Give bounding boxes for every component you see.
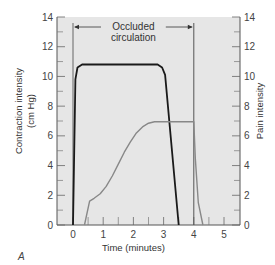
plot-background (57, 17, 240, 225)
y-tick-label-left: 2 (47, 190, 53, 201)
x-axis-title: Time (minutes) (102, 242, 165, 253)
chart: 0022446688101012121414012345 Occluded ci… (0, 0, 275, 265)
y-tick-label-right: 4 (244, 160, 250, 171)
y-tick-label-left: 4 (47, 160, 53, 171)
y-axis-left-unit: (cm Hg) (25, 94, 36, 128)
y-tick-label-right: 6 (244, 130, 250, 141)
y-tick-label-left: 8 (47, 101, 53, 112)
x-tick-label: 0 (70, 229, 76, 240)
y-tick-label-right: 14 (244, 12, 256, 23)
x-tick-label: 4 (191, 229, 197, 240)
y-axis-left-title: Contraction intensity (13, 68, 24, 154)
x-tick-label: 2 (131, 229, 137, 240)
y-tick-label-right: 10 (244, 71, 256, 82)
y-tick-label-left: 12 (42, 41, 54, 52)
y-tick-label-right: 8 (244, 101, 250, 112)
y-tick-label-right: 0 (244, 220, 250, 231)
y-tick-label-left: 6 (47, 130, 53, 141)
y-axis-right-title: Pain intensity (254, 83, 265, 140)
y-tick-label-left: 14 (42, 12, 54, 23)
y-tick-label-left: 0 (47, 220, 53, 231)
x-tick-label: 5 (221, 229, 227, 240)
annotation-label-line1: Occluded (112, 21, 154, 32)
y-tick-label-right: 12 (244, 41, 256, 52)
y-tick-label-left: 10 (42, 71, 54, 82)
x-tick-label: 3 (161, 229, 167, 240)
panel-label: A (17, 251, 25, 262)
y-tick-label-right: 2 (244, 190, 250, 201)
annotation-label-line2: circulation (111, 32, 156, 43)
x-tick-label: 1 (100, 229, 106, 240)
